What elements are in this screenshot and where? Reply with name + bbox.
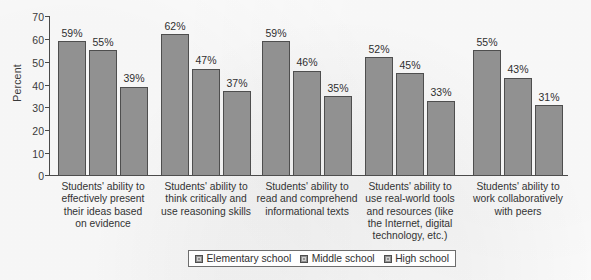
bar-group: 55%43%31% bbox=[473, 16, 563, 176]
legend-swatch-icon bbox=[195, 255, 203, 263]
bar-value-label: 37% bbox=[217, 78, 257, 89]
y-tick-label-30: 30 bbox=[18, 103, 44, 114]
bar[interactable] bbox=[473, 50, 501, 176]
bar[interactable] bbox=[262, 41, 290, 176]
legend-label: High school bbox=[395, 253, 449, 264]
y-tick-label-20: 20 bbox=[18, 126, 44, 137]
legend-swatch-icon bbox=[300, 255, 308, 263]
category-label-line: Students' ability to bbox=[251, 181, 363, 193]
bar-value-label: 31% bbox=[529, 92, 569, 103]
category-label-line: the Internet, digital bbox=[355, 218, 465, 230]
category-label-line: Students' ability to bbox=[465, 181, 571, 193]
x-axis-category-label: Students' ability towork collaboratively… bbox=[465, 181, 571, 218]
chart-legend: Elementary school Middle school High sch… bbox=[188, 250, 456, 267]
bar-value-label: 33% bbox=[421, 87, 461, 98]
bar-value-label: 55% bbox=[83, 37, 123, 48]
y-tick-label-40: 40 bbox=[18, 81, 44, 92]
bar-value-label: 52% bbox=[359, 44, 399, 55]
x-axis-category-label: Students' ability touse real-world tools… bbox=[355, 181, 465, 242]
category-label-line: on evidence bbox=[51, 218, 155, 230]
category-label-line: with peers bbox=[465, 206, 571, 218]
bar-group: 52%45%33% bbox=[365, 16, 455, 176]
bar-value-label: 39% bbox=[114, 73, 154, 84]
bar[interactable] bbox=[324, 96, 352, 176]
bar[interactable] bbox=[120, 87, 148, 176]
category-label-line: think critically and bbox=[154, 193, 258, 205]
bar[interactable] bbox=[504, 78, 532, 176]
x-axis-category-label: Students' ability toread and comprehendi… bbox=[251, 181, 363, 218]
bar-value-label: 43% bbox=[498, 64, 538, 75]
bar-value-label: 62% bbox=[155, 21, 195, 32]
x-axis-category-label: Students' ability tothink critically and… bbox=[154, 181, 258, 218]
bar-group: 62%47%37% bbox=[161, 16, 251, 176]
category-label-line: use reasoning skills bbox=[154, 206, 258, 218]
bar-value-label: 35% bbox=[318, 83, 358, 94]
bar-value-label: 45% bbox=[390, 60, 430, 71]
y-tick-label-70: 70 bbox=[18, 12, 44, 23]
category-label-line: Students' ability to bbox=[51, 181, 155, 193]
category-label-line: use real-world tools bbox=[355, 193, 465, 205]
legend-label: Middle school bbox=[312, 253, 375, 264]
category-label-line: their ideas based bbox=[51, 206, 155, 218]
category-label-line: work collaboratively bbox=[465, 193, 571, 205]
plot-area: 59%55%39%62%47%37%59%46%35%52%45%33%55%4… bbox=[49, 16, 568, 176]
legend-item-elementary-school[interactable]: Elementary school bbox=[195, 253, 291, 264]
y-tick-label-0: 0 bbox=[18, 171, 44, 182]
category-label-line: effectively present bbox=[51, 193, 155, 205]
bar-value-label: 47% bbox=[186, 55, 226, 66]
bar[interactable] bbox=[192, 69, 220, 176]
bar-value-label: 46% bbox=[287, 57, 327, 68]
y-tick-label-60: 60 bbox=[18, 35, 44, 46]
bar[interactable] bbox=[58, 41, 86, 176]
legend-item-high-school[interactable]: High school bbox=[384, 253, 449, 264]
x-axis-category-label: Students' ability toeffectively presentt… bbox=[51, 181, 155, 230]
category-label-line: and resources (like bbox=[355, 206, 465, 218]
y-tick-label-10: 10 bbox=[18, 149, 44, 160]
bar[interactable] bbox=[161, 34, 189, 176]
bar-chart-figure: Percent 70 60 50 40 30 20 10 0 59%55%39%… bbox=[0, 0, 591, 280]
bar-group: 59%46%35% bbox=[262, 16, 352, 176]
bar-value-label: 55% bbox=[467, 37, 507, 48]
bar[interactable] bbox=[427, 101, 455, 176]
legend-item-middle-school[interactable]: Middle school bbox=[300, 253, 374, 264]
category-label-line: informational texts bbox=[251, 206, 363, 218]
bar-value-label: 59% bbox=[256, 28, 296, 39]
legend-label: Elementary school bbox=[207, 253, 292, 264]
category-label-line: Students' ability to bbox=[355, 181, 465, 193]
category-label-line: read and comprehend bbox=[251, 193, 363, 205]
bar[interactable] bbox=[89, 50, 117, 176]
bar[interactable] bbox=[535, 105, 563, 176]
bar[interactable] bbox=[223, 91, 251, 176]
bar[interactable] bbox=[293, 71, 321, 176]
bar-group: 59%55%39% bbox=[58, 16, 148, 176]
category-label-line: technology, etc.) bbox=[355, 230, 465, 242]
y-axis-ticks: 70 60 50 40 30 20 10 0 bbox=[14, 0, 44, 280]
bar[interactable] bbox=[365, 57, 393, 176]
category-label-line: Students' ability to bbox=[154, 181, 258, 193]
bar[interactable] bbox=[396, 73, 424, 176]
y-tick-label-50: 50 bbox=[18, 58, 44, 69]
legend-swatch-icon bbox=[384, 255, 392, 263]
